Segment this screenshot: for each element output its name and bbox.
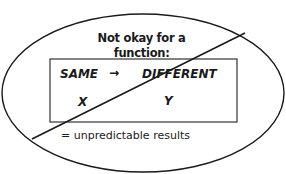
left-variable: X bbox=[78, 95, 87, 109]
arrow-icon: → bbox=[109, 66, 119, 80]
function-diagram: Not okay for a function: SAME → DIFFEREN… bbox=[0, 0, 286, 174]
diagram-title: Not okay for a function: bbox=[68, 30, 215, 60]
diagram-shapes bbox=[0, 0, 286, 174]
right-variable: Y bbox=[164, 94, 173, 108]
right-label: DIFFERENT bbox=[142, 67, 217, 81]
left-label: SAME bbox=[60, 67, 98, 81]
result-note: = unpredictable results bbox=[61, 129, 190, 142]
